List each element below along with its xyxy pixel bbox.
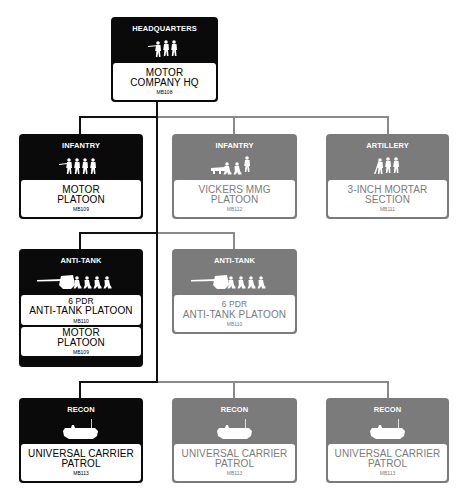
unit-card-motor-platoon[interactable]: INFANTRY MOTOR PLATOON MB109 bbox=[19, 134, 143, 219]
unit-type-label: ANTI-TANK bbox=[214, 256, 255, 265]
unit-type-label: ANTI-TANK bbox=[60, 256, 101, 265]
unit-label: 6 PDR ANTI-TANK PLATOON MB110 bbox=[174, 295, 295, 332]
unit-name: 6 PDR ANTI-TANK PLATOON bbox=[21, 297, 141, 316]
unit-type-label: INFANTRY bbox=[215, 141, 253, 150]
universal-carrier-icon bbox=[215, 418, 255, 440]
unit-name: 6 PDR ANTI-TANK PLATOON bbox=[174, 300, 295, 319]
unit-code: MB110 bbox=[174, 321, 295, 327]
unit-card-vickers-mmg-platoon[interactable]: INFANTRY VICKERS MMG PLATOON MB112 bbox=[172, 134, 297, 219]
unit-type-label: HEADQUARTERS bbox=[132, 24, 197, 33]
row2-stub-1 bbox=[79, 116, 81, 134]
unit-label: MOTOR PLATOON MB109 bbox=[21, 180, 141, 217]
row2-connector-left bbox=[79, 116, 158, 118]
unit-name: MOTOR COMPANY HQ bbox=[113, 68, 216, 87]
unit-card-universal-carrier-patrol-3[interactable]: RECON UNIVERSAL CARRIER PATROL MB113 bbox=[326, 398, 449, 483]
unit-code: MB113 bbox=[174, 470, 295, 476]
unit-code: MB108 bbox=[113, 89, 216, 95]
unit-label: VICKERS MMG PLATOON MB112 bbox=[174, 180, 295, 217]
row4-stub-1 bbox=[79, 381, 81, 398]
anti-tank-gun-icon bbox=[191, 269, 279, 291]
unit-card-universal-carrier-patrol-2[interactable]: RECON UNIVERSAL CARRIER PATROL MB113 bbox=[172, 398, 297, 483]
row3-connector-right bbox=[158, 232, 235, 234]
unit-name: 3-INCH MORTAR SECTION bbox=[328, 185, 447, 204]
unit-code: MB111 bbox=[328, 206, 447, 212]
unit-card-6-pdr-anti-tank-platoon[interactable]: ANTI-TANK 6 PDR ANTI-TANK PLATOON MB110 … bbox=[19, 249, 143, 367]
unit-card-universal-carrier-patrol[interactable]: RECON UNIVERSAL CARRIER PATROL MB113 bbox=[19, 398, 143, 483]
row2-connector-right bbox=[158, 116, 389, 118]
unit-label: 3-INCH MORTAR SECTION MB111 bbox=[328, 180, 447, 217]
unit-card-motor-company-hq[interactable]: HEADQUARTERS MOTOR COMPANY HQ MB108 bbox=[111, 17, 218, 102]
row4-connector-right bbox=[158, 381, 389, 383]
unit-card-6-pdr-anti-tank-platoon-optional[interactable]: ANTI-TANK 6 PDR ANTI-TANK PLATOON MB110 bbox=[172, 249, 297, 334]
unit-code: MB109 bbox=[21, 349, 141, 355]
infantry-squad-icon bbox=[59, 154, 103, 176]
row3-connector-left bbox=[79, 232, 158, 234]
unit-type-label: RECON bbox=[67, 405, 95, 414]
unit-code: MB110 bbox=[21, 318, 141, 324]
unit-label: MOTOR COMPANY HQ MB108 bbox=[113, 63, 216, 100]
unit-code: MB113 bbox=[328, 470, 447, 476]
unit-name: UNIVERSAL CARRIER PATROL bbox=[174, 449, 295, 468]
unit-type-label: RECON bbox=[221, 405, 249, 414]
row3-stub-2 bbox=[233, 232, 235, 249]
universal-carrier-icon bbox=[61, 418, 101, 440]
row3-stub-1 bbox=[79, 232, 81, 249]
anti-tank-gun-icon bbox=[37, 269, 125, 291]
row2-stub-3 bbox=[387, 116, 389, 134]
mortar-team-icon bbox=[373, 154, 403, 176]
unit-type-label: ARTILLERY bbox=[366, 141, 409, 150]
attached-unit-label[interactable]: MOTOR PLATOON MB109 bbox=[21, 327, 141, 356]
unit-type-label: RECON bbox=[374, 405, 402, 414]
unit-code: MB109 bbox=[21, 206, 141, 212]
unit-label: UNIVERSAL CARRIER PATROL MB113 bbox=[174, 444, 295, 481]
unit-name: MOTOR PLATOON bbox=[21, 328, 141, 347]
row4-stub-3 bbox=[387, 381, 389, 398]
row2-stub-2 bbox=[233, 116, 235, 134]
trunk-connector bbox=[156, 101, 158, 383]
unit-label: 6 PDR ANTI-TANK PLATOON MB110 bbox=[21, 295, 141, 325]
unit-name: UNIVERSAL CARRIER PATROL bbox=[328, 449, 447, 468]
unit-name: MOTOR PLATOON bbox=[21, 185, 141, 204]
row4-connector-left bbox=[79, 381, 158, 383]
unit-label: UNIVERSAL CARRIER PATROL MB113 bbox=[21, 444, 141, 481]
machine-gun-team-icon bbox=[211, 154, 259, 176]
unit-name: UNIVERSAL CARRIER PATROL bbox=[21, 449, 141, 468]
infantry-group-icon bbox=[148, 37, 182, 59]
unit-code: MB112 bbox=[174, 206, 295, 212]
unit-type-label: INFANTRY bbox=[62, 141, 100, 150]
unit-label: UNIVERSAL CARRIER PATROL MB113 bbox=[328, 444, 447, 481]
unit-name: VICKERS MMG PLATOON bbox=[174, 185, 295, 204]
row4-stub-2 bbox=[233, 381, 235, 398]
universal-carrier-icon bbox=[368, 418, 408, 440]
unit-code: MB113 bbox=[21, 470, 141, 476]
unit-card-3-inch-mortar-section[interactable]: ARTILLERY 3-INCH MORTAR SECTION MB111 bbox=[326, 134, 449, 219]
